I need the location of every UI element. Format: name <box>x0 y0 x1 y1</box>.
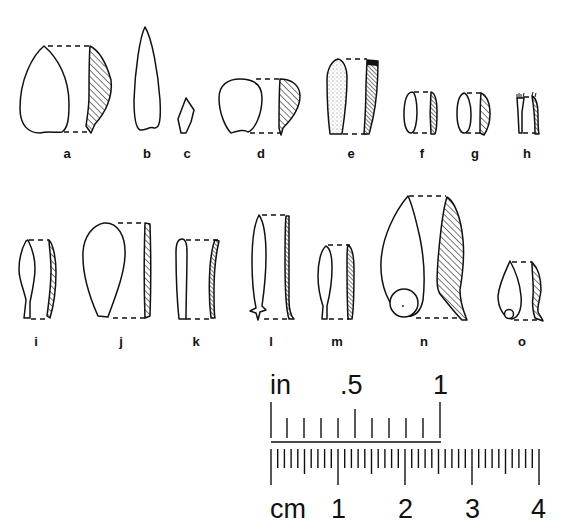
artifact-j <box>83 223 151 318</box>
scale-cm-unit: cm <box>270 496 306 523</box>
label-a: a <box>63 146 70 161</box>
label-i: i <box>34 334 38 349</box>
scale-inch-half: .5 <box>340 372 363 399</box>
label-n: n <box>420 334 428 349</box>
label-c: c <box>183 146 190 161</box>
scale-cm-4: 4 <box>531 496 546 523</box>
scale-inch-unit: in <box>270 372 291 399</box>
label-f: f <box>420 146 424 161</box>
artifact-l <box>250 215 294 320</box>
scale-cm-2: 2 <box>398 496 413 523</box>
artifact-g <box>457 93 490 135</box>
scale-inch-one: 1 <box>433 372 448 399</box>
artifact-f <box>404 92 437 134</box>
artifact-c <box>178 98 194 133</box>
label-e: e <box>347 146 354 161</box>
artifact-d <box>219 79 300 135</box>
scale-bar <box>271 402 539 485</box>
label-l: l <box>269 334 273 349</box>
label-d: d <box>257 146 265 161</box>
scale-cm-3: 3 <box>465 496 480 523</box>
artifact-n <box>381 196 467 320</box>
artifact-h <box>517 92 539 134</box>
artifact-m <box>318 245 354 319</box>
artifact-i <box>19 240 56 319</box>
artifact-k <box>176 239 219 319</box>
label-m: m <box>331 334 343 349</box>
artifact-b <box>134 27 160 130</box>
label-b: b <box>143 146 151 161</box>
artifact-e <box>327 59 378 134</box>
artifact-a <box>20 46 111 133</box>
artifact-o <box>498 261 543 321</box>
artifact-figure: a b c d e f g h i j k l m n o in .5 1 cm… <box>0 0 567 530</box>
label-k: k <box>192 334 199 349</box>
label-h: h <box>523 146 531 161</box>
artifact-drawings <box>0 0 567 530</box>
label-j: j <box>119 334 123 349</box>
scale-cm-1: 1 <box>331 496 346 523</box>
label-o: o <box>518 334 526 349</box>
label-g: g <box>471 146 479 161</box>
